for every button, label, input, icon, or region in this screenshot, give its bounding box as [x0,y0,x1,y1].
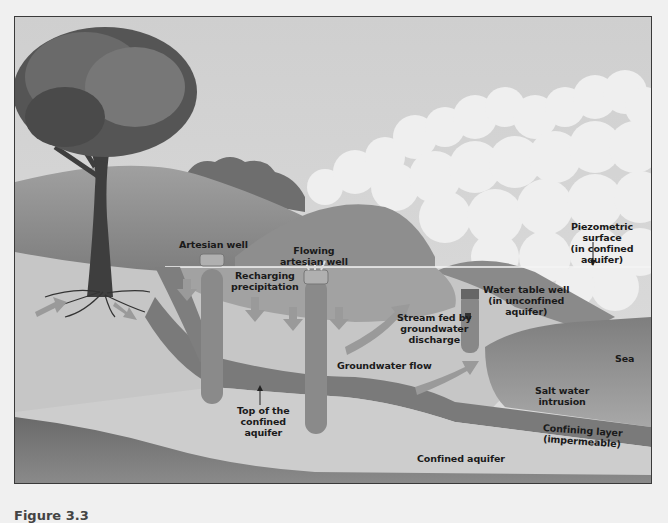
label-piezometric-surface: Piezometric surface (in confined aquifer… [553,221,651,265]
label-water-table-well: Water table well (in unconfined aquifer) [483,284,569,317]
artesian-well [200,254,224,404]
label-recharging-precipitation: Recharging precipitation [231,270,299,292]
label-artesian-well: Artesian well [179,239,248,250]
figure-caption: Figure 3.3 [14,509,89,523]
label-sea: Sea [615,353,634,364]
label-stream-fed: Stream fed by groundwater discharge [397,312,472,345]
label-confined-aquifer: Confined aquifer [417,453,505,464]
label-flowing-artesian-well: Flowing artesian well [280,245,348,267]
groundwater-diagram: Artesian well Flowing artesian well Rech… [14,16,652,484]
label-top-of-confined-aquifer: Top of the confined aquifer [237,405,290,438]
label-groundwater-flow: Groundwater flow [337,360,432,371]
flowing-artesian-well [304,260,328,434]
label-salt-water-intrusion: Salt water intrusion [535,385,589,407]
